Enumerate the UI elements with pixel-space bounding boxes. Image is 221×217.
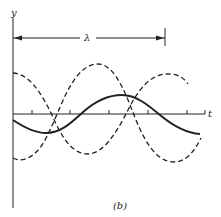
- figure-label: (b): [113, 200, 127, 211]
- wavelength-label: λ: [83, 32, 90, 43]
- arrowhead-right-icon: [156, 36, 164, 41]
- arrowhead-left-icon: [14, 36, 22, 41]
- y-axis-label: y: [10, 7, 17, 18]
- dashed-wave-2: [13, 64, 201, 162]
- wave-diagram: y t λ (b): [0, 0, 221, 217]
- t-axis-label: t: [208, 108, 213, 119]
